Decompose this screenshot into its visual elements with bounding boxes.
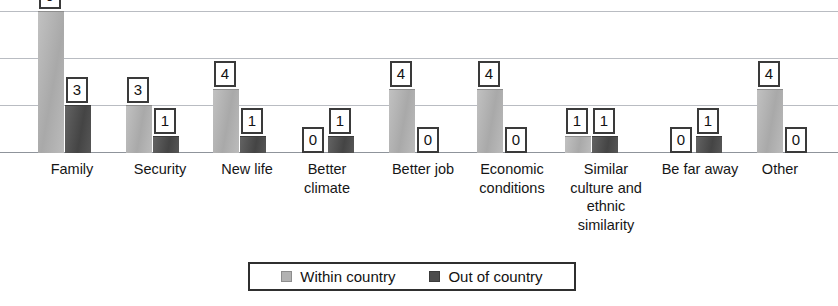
- legend-label-out-of-country: Out of country: [448, 269, 542, 285]
- legend-swatch-out-of-country-icon: [429, 271, 440, 282]
- value-label-within: 4: [478, 61, 500, 87]
- legend-entry-out-of-country[interactable]: Out of country: [429, 269, 542, 285]
- value-label-within: 4: [390, 61, 412, 87]
- bar-within-country[interactable]: [38, 11, 64, 153]
- value-label-out: 3: [66, 77, 88, 103]
- chart-legend: Within country Out of country: [248, 262, 576, 291]
- legend-swatch-within-country-icon: [281, 271, 292, 282]
- value-label-within: 4: [214, 61, 236, 87]
- value-label-out: 0: [785, 127, 807, 153]
- value-label-within: 0: [670, 127, 692, 153]
- category-label-similar-culture: Similar culture and ethnic similarity: [565, 160, 647, 234]
- legend-entry-within-country[interactable]: Within country: [281, 269, 395, 285]
- category-label-better-climate: Better climate: [291, 160, 363, 197]
- category-label-economic-conditions: Economic conditions: [456, 160, 568, 197]
- bar-chart: 9 3 3 1 4 1: [0, 0, 838, 306]
- value-label-out: 1: [593, 108, 615, 134]
- value-label-out: 0: [417, 127, 439, 153]
- bar-out-of-country[interactable]: [153, 136, 179, 153]
- bars-layer: 9 3 3 1 4 1: [0, 0, 838, 156]
- value-label-within: 4: [758, 61, 780, 87]
- bar-within-country[interactable]: [477, 89, 503, 153]
- bar-out-of-country[interactable]: [592, 136, 618, 153]
- value-label-within: 9: [39, 0, 61, 9]
- bar-within-country[interactable]: [389, 89, 415, 153]
- category-label-new-life: New life: [197, 160, 297, 179]
- category-label-other: Other: [742, 160, 818, 179]
- value-label-out: 0: [505, 127, 527, 153]
- value-label-out: 1: [154, 108, 176, 134]
- bar-within-country[interactable]: [565, 136, 591, 153]
- value-label-within: 3: [127, 77, 149, 103]
- bar-out-of-country[interactable]: [240, 136, 266, 153]
- category-label-be-far-away: Be far away: [648, 160, 752, 179]
- bar-within-country[interactable]: [757, 89, 783, 153]
- category-label-family: Family: [22, 160, 122, 179]
- bar-within-country[interactable]: [126, 105, 152, 153]
- value-label-out: 1: [329, 108, 351, 134]
- value-label-within: 0: [302, 127, 324, 153]
- bar-out-of-country[interactable]: [328, 136, 354, 153]
- bar-out-of-country[interactable]: [696, 136, 722, 153]
- value-label-within: 1: [566, 108, 588, 134]
- bar-out-of-country[interactable]: [65, 105, 91, 153]
- category-label-security: Security: [110, 160, 210, 179]
- value-label-out: 1: [697, 108, 719, 134]
- value-label-out: 1: [241, 108, 263, 134]
- legend-label-within-country: Within country: [300, 269, 395, 285]
- bar-within-country[interactable]: [213, 89, 239, 153]
- category-axis-labels: Family Security New life Better climate …: [0, 160, 838, 250]
